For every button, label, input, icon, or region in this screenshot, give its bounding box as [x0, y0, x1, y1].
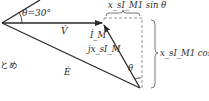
- theta-angle-label: θ=30°: [22, 9, 51, 18]
- e-label: Ė: [64, 68, 71, 77]
- im-label: İ_M: [90, 31, 106, 40]
- v-label: V̇: [61, 27, 68, 36]
- cos-brace: [151, 20, 158, 88]
- left-text-fragment: とめ: [0, 61, 18, 70]
- e-phasor-line: [2, 23, 140, 88]
- jx-im-phasor-arrow: [104, 25, 140, 88]
- theta-bottom-arc: [135, 78, 141, 79]
- jx-im-label: jx_sI_M: [88, 45, 120, 54]
- sin-brace: [106, 10, 140, 16]
- theta-bottom-label: θ: [128, 64, 133, 73]
- sin-term-label: x_sI_M1 sin θ: [108, 1, 166, 10]
- cos-term-label: x_sI_M1 cos θ: [160, 49, 209, 58]
